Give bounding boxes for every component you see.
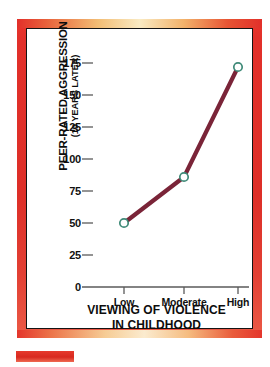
line-chart: 175 150 125 100 75 50 25 0 PEER-RATED AG… (27, 29, 252, 328)
x-axis-tick-labels: Low Moderate High (27, 29, 252, 328)
frame-top-sheen (17, 19, 262, 28)
x-axis-title-line1: VIEWING OF VIOLENCE (65, 303, 248, 318)
figure-red-frame: 175 150 125 100 75 50 25 0 PEER-RATED AG… (17, 19, 262, 338)
x-axis-title-line2: IN CHILDHOOD (65, 318, 248, 333)
chart-plate: 175 150 125 100 75 50 25 0 PEER-RATED AG… (26, 28, 253, 329)
caption-color-tab (16, 351, 74, 362)
x-axis-title: VIEWING OF VIOLENCE IN CHILDHOOD (65, 303, 248, 333)
